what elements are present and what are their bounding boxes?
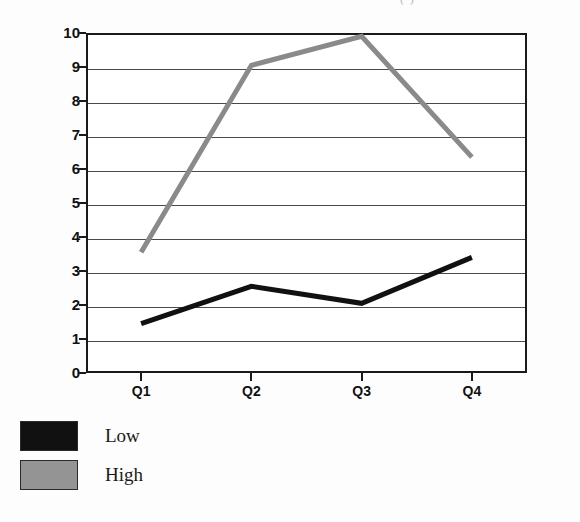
series-lines [0,0,580,410]
legend-label: High [105,464,143,486]
legend-swatch [20,421,78,451]
legend-label: Low [105,425,140,447]
series-line-high [141,36,472,252]
legend-item: Low [20,416,280,455]
line-chart: 109876543210 Q1Q2Q3Q4 [0,0,580,410]
legend-swatch [20,460,78,490]
chart-legend: LowHigh [20,416,280,494]
series-line-low [141,257,472,323]
legend-item: High [20,455,280,494]
